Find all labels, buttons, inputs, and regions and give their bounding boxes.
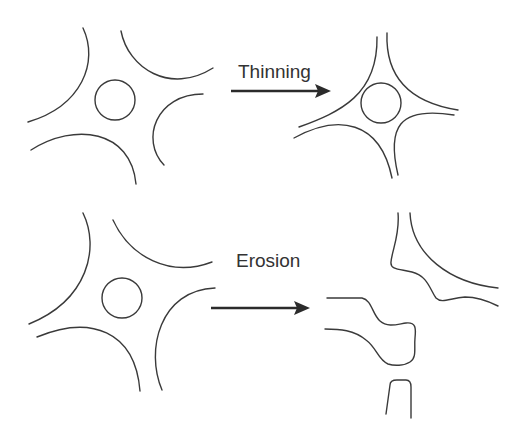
grain-bottom-right-2: [155, 288, 215, 390]
thinning-initial-figure: [28, 28, 213, 184]
thinned-grain-bottom-right: [394, 113, 454, 175]
eroded-fragment-top-right-edge: [410, 213, 498, 288]
grain-bottom-right: [153, 94, 203, 165]
pore-circle-2: [102, 278, 142, 318]
thinned-grain-top-left: [299, 37, 377, 127]
thinned-grain-top-right: [387, 33, 458, 110]
erosion-result-figure: [325, 213, 498, 418]
pore-circle: [95, 80, 135, 120]
grain-top-right-2: [113, 220, 212, 267]
grain-top-left-2: [29, 213, 90, 324]
erosion-initial-figure: [29, 213, 215, 391]
eroded-fragment-middle: [325, 298, 415, 365]
eroded-fragment-bottom: [386, 380, 411, 418]
thinning-arrow-group: Thinning: [231, 61, 331, 98]
erosion-arrow-group: Erosion: [211, 250, 310, 315]
grain-bottom-left-2: [37, 327, 140, 391]
erosion-label: Erosion: [236, 250, 300, 271]
grain-top-right: [121, 31, 213, 79]
thinned-pore-circle: [361, 83, 401, 123]
thinning-result-figure: [294, 33, 458, 178]
thinning-label: Thinning: [238, 61, 311, 82]
diagram-canvas: Thinning Erosion: [0, 0, 519, 434]
thinned-grain-bottom-left: [294, 125, 392, 178]
grain-top-left: [28, 28, 89, 122]
eroded-fragment-top-left-edge: [391, 213, 498, 306]
grain-bottom-left: [31, 134, 136, 184]
